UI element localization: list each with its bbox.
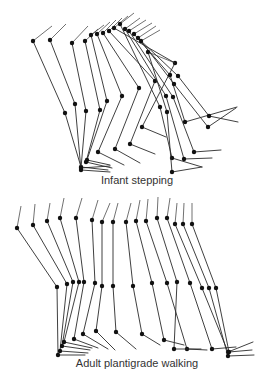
joint-marker	[101, 31, 105, 35]
joint-marker	[165, 281, 169, 285]
joint-marker	[93, 281, 97, 285]
joint-marker	[134, 219, 138, 223]
joint-marker	[31, 39, 35, 43]
joint-marker	[146, 50, 150, 54]
joint-marker	[128, 142, 132, 146]
limb-trace	[85, 25, 110, 165]
joint-marker	[77, 280, 81, 284]
joint-marker	[140, 125, 144, 129]
joint-marker	[15, 226, 19, 230]
joint-marker	[79, 166, 83, 170]
joint-marker	[71, 280, 75, 284]
joint-marker	[55, 285, 59, 289]
joint-marker	[72, 337, 76, 341]
joint-marker	[190, 222, 194, 226]
limb-trace	[181, 203, 254, 358]
joint-marker	[120, 94, 124, 98]
joint-marker	[150, 281, 154, 285]
joint-marker	[137, 86, 141, 90]
joint-marker	[48, 38, 52, 42]
joint-marker	[158, 105, 162, 109]
joint-marker	[100, 220, 104, 224]
joint-marker	[81, 332, 85, 336]
limb-trace	[31, 204, 88, 353]
limb-trace	[48, 24, 110, 172]
joint-marker	[140, 332, 144, 336]
joint-marker	[105, 99, 109, 103]
caption-adult-plantigrade-walking: Adult plantigrade walking	[0, 357, 274, 369]
joint-marker	[85, 158, 89, 162]
joint-marker	[172, 347, 176, 351]
limb-trace	[136, 26, 238, 122]
joint-marker	[90, 218, 94, 222]
joint-marker	[63, 111, 67, 115]
joint-marker	[114, 330, 118, 334]
joint-marker	[73, 102, 77, 106]
joint-marker	[74, 216, 78, 220]
joint-marker	[173, 222, 177, 226]
joint-marker	[58, 349, 62, 353]
joint-marker	[227, 350, 231, 354]
joint-marker	[118, 22, 122, 26]
joint-marker	[214, 286, 218, 290]
limb-trace	[124, 203, 160, 345]
joint-marker	[175, 280, 179, 284]
joint-marker	[207, 286, 211, 290]
joint-marker	[132, 32, 136, 36]
joint-marker	[60, 344, 64, 348]
joint-marker	[188, 281, 192, 285]
joint-marker	[165, 216, 169, 220]
limb-trace	[94, 203, 115, 350]
joint-marker	[82, 280, 86, 284]
joint-marker	[192, 150, 196, 154]
joint-marker	[207, 114, 211, 118]
joint-marker	[94, 329, 98, 333]
limb-trace	[132, 23, 237, 124]
joint-marker	[183, 120, 187, 124]
joint-marker	[62, 340, 66, 344]
joint-marker	[182, 157, 186, 161]
joint-marker	[111, 220, 115, 224]
joint-marker	[164, 94, 168, 98]
joint-marker	[124, 220, 128, 224]
joint-marker	[70, 41, 74, 45]
joint-marker	[206, 125, 210, 129]
joint-marker	[155, 216, 159, 220]
limb-trace	[83, 29, 112, 168]
joint-marker	[162, 338, 166, 342]
adult-walking-stick-figures	[15, 197, 254, 358]
joint-marker	[65, 282, 69, 286]
joint-marker	[83, 39, 87, 43]
joint-marker	[111, 284, 115, 288]
limb-trace	[101, 20, 141, 163]
joint-marker	[144, 219, 148, 223]
caption-infant-stepping: Infant stepping	[0, 174, 274, 186]
joint-marker	[89, 33, 93, 37]
joint-marker	[165, 110, 169, 114]
joint-marker	[100, 284, 104, 288]
joint-marker	[171, 95, 175, 99]
joint-marker	[58, 216, 62, 220]
stick-figure-diagram	[0, 0, 274, 379]
joint-marker	[210, 347, 214, 351]
limb-trace	[31, 26, 108, 170]
joint-marker	[96, 150, 100, 154]
joint-marker	[176, 74, 180, 78]
joint-marker	[200, 286, 204, 290]
joint-marker	[127, 29, 131, 33]
joint-marker	[181, 222, 185, 226]
joint-marker	[31, 223, 35, 227]
joint-marker	[112, 26, 116, 30]
joint-marker	[131, 284, 135, 288]
joint-marker	[45, 219, 49, 223]
limb-trace	[134, 200, 184, 345]
joint-marker	[84, 109, 88, 113]
joint-marker	[172, 82, 176, 86]
joint-marker	[113, 147, 117, 151]
joint-marker	[139, 39, 143, 43]
joint-marker	[98, 108, 102, 112]
joint-marker	[95, 32, 99, 36]
joint-marker	[123, 27, 127, 31]
joint-marker	[107, 29, 111, 33]
infant-stepping-stick-figures	[31, 13, 238, 174]
